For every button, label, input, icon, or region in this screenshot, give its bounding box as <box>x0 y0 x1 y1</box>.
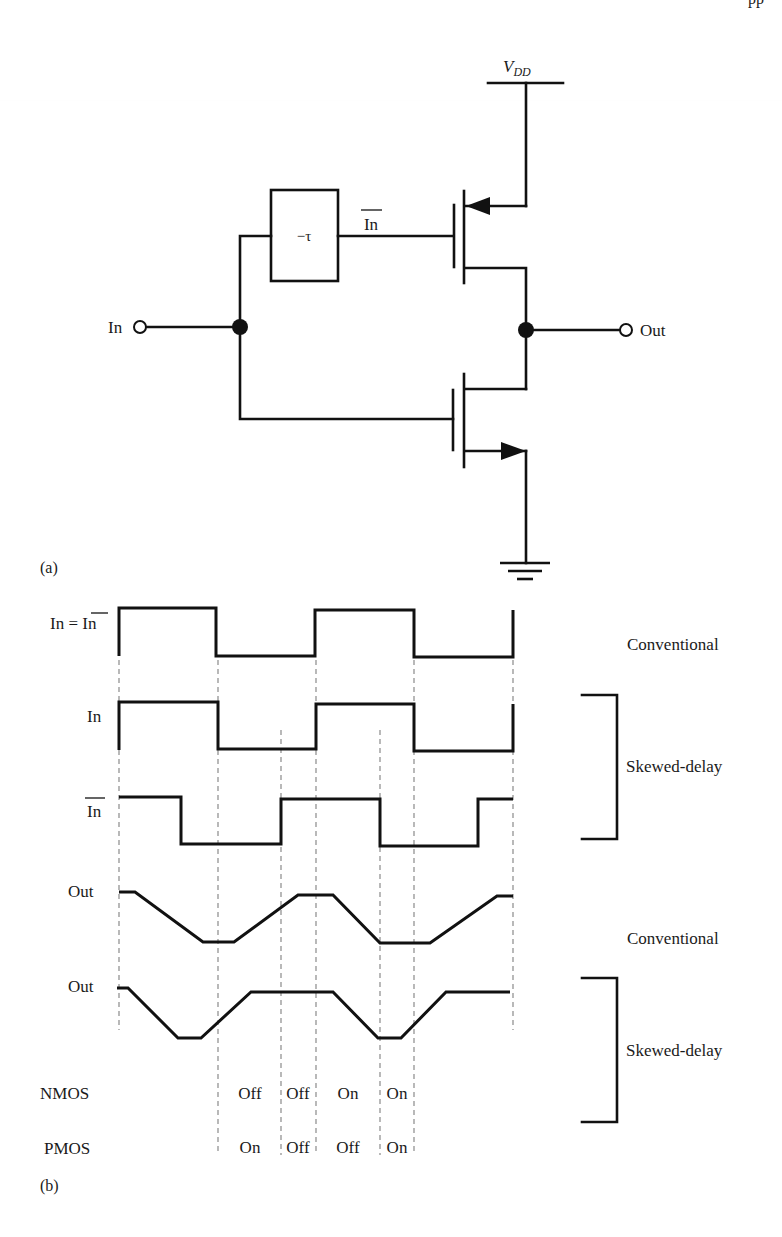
output-terminal <box>620 324 632 336</box>
nmos-row-label: NMOS <box>40 1084 89 1103</box>
row-label-out-conventional: Out <box>68 882 94 901</box>
group-label-skewed-bottom: Skewed-delay <box>626 1041 723 1060</box>
pmos-drain-wire <box>466 268 526 330</box>
output-label: Out <box>640 321 666 340</box>
pmos-row-label: PMOS <box>44 1139 90 1158</box>
figure-canvas: pp VDD −τ In In Out <box>0 0 782 1237</box>
part-a-label: (a) <box>40 559 58 577</box>
waveform-out-conventional <box>119 892 513 943</box>
pmos-state: On <box>240 1138 261 1157</box>
pmos-state: Off <box>336 1138 360 1157</box>
bracket-skewed-bottom <box>582 978 617 1122</box>
transistor-states: OffOffOnOnOnOffOffOn <box>238 1084 408 1157</box>
row-label-out-skewed: Out <box>68 977 94 996</box>
part-b-label: (b) <box>40 1177 59 1195</box>
timing-diagram: In = In In In Out Out Conventional Skewe… <box>40 608 723 1195</box>
nmos-arrow-icon <box>501 442 526 460</box>
gate-signal-label: In <box>364 215 379 234</box>
row-label-in-skewed: In <box>87 707 102 726</box>
row-label-in-conventional: In = In <box>50 614 97 633</box>
pmos-state: On <box>387 1138 408 1157</box>
input-junction-dot <box>232 319 248 335</box>
timing-waveforms <box>117 608 513 1038</box>
pmos-transistor <box>454 191 526 330</box>
nmos-state: On <box>387 1084 408 1103</box>
group-label-conventional-top: Conventional <box>627 635 719 654</box>
nmos-state: Off <box>286 1084 310 1103</box>
pmos-arrow-icon <box>466 197 490 215</box>
pmos-state: Off <box>286 1138 310 1157</box>
ground-symbol <box>500 563 550 579</box>
waveform-in-skewed <box>119 702 513 751</box>
vdd-label: VDD <box>503 57 531 79</box>
group-label-skewed-top: Skewed-delay <box>626 757 723 776</box>
nmos-transistor <box>453 330 526 563</box>
group-label-conventional-bottom: Conventional <box>627 929 719 948</box>
nmos-state: On <box>338 1084 359 1103</box>
delay-block-label: −τ <box>297 228 312 244</box>
waveform-out-skewed <box>117 988 510 1038</box>
circuit-schematic: VDD −τ In In Out <box>40 57 666 579</box>
row-label-inbar-skewed: In <box>87 802 102 821</box>
nmos-state: Off <box>238 1084 262 1103</box>
header-fragment: pp <box>748 0 764 8</box>
waveform-in-conventional <box>119 608 513 657</box>
input-terminal <box>134 321 146 333</box>
input-label: In <box>108 318 123 337</box>
bracket-skewed-top <box>582 695 617 839</box>
